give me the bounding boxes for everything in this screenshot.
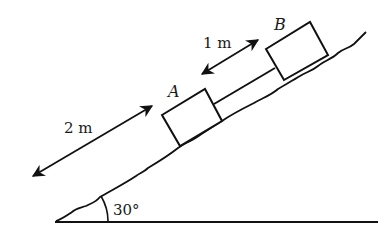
- connector-rod: [214, 68, 275, 104]
- block-a-label: A: [166, 82, 180, 101]
- angle-arc: [101, 196, 108, 221]
- dimension-arrow-2m: [33, 106, 152, 176]
- incline-diagram: 30° A B 2 m 1 m: [0, 0, 392, 237]
- dimension-label-1m: 1 m: [203, 34, 232, 52]
- dimension-label-2m: 2 m: [64, 119, 93, 137]
- angle-label: 30°: [113, 201, 140, 219]
- block-b-label: B: [273, 15, 286, 34]
